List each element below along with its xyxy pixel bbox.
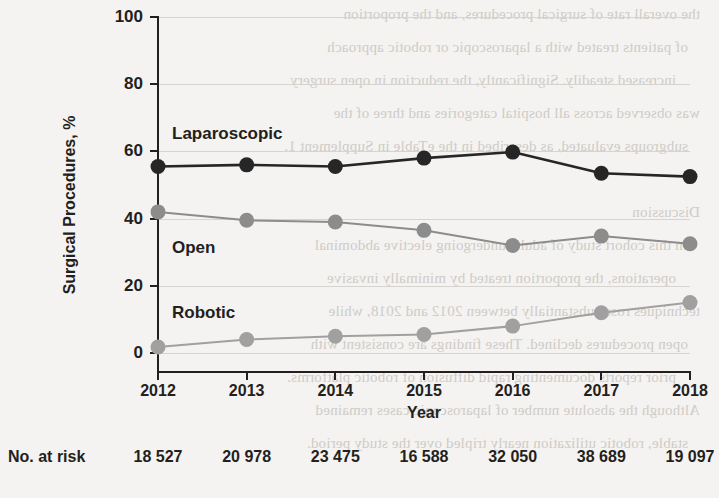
at-risk-value: 18 527 (134, 448, 183, 466)
x-tick-label-2012: 2012 (140, 382, 176, 400)
x-tick-label-2015: 2015 (406, 382, 442, 400)
data-point (328, 214, 343, 229)
data-point (505, 145, 520, 160)
x-tick-2018 (689, 371, 691, 380)
data-point (683, 295, 698, 310)
at-risk-value: 23 475 (311, 448, 360, 466)
data-point (239, 332, 254, 347)
at-risk-value: 38 689 (577, 448, 626, 466)
at-risk-value: 16 588 (400, 448, 449, 466)
data-point (239, 157, 254, 172)
data-point (417, 327, 432, 342)
data-point (151, 159, 166, 174)
x-tick-label-2014: 2014 (318, 382, 354, 400)
data-point (594, 166, 609, 181)
data-point (328, 159, 343, 174)
data-point (505, 319, 520, 334)
data-point (328, 329, 343, 344)
data-point (239, 213, 254, 228)
at-risk-value: 32 050 (488, 448, 537, 466)
series-open (151, 204, 698, 253)
data-point (594, 229, 609, 244)
at-risk-value: 20 978 (222, 448, 271, 466)
series-laparoscopic (151, 145, 698, 185)
x-tick-label-2018: 2018 (672, 382, 708, 400)
series-label-open: Open (172, 238, 215, 258)
x-tick-2013 (246, 371, 248, 380)
x-tick-2015 (423, 371, 425, 380)
data-point (151, 339, 166, 354)
data-point (417, 151, 432, 166)
data-point (151, 204, 166, 219)
x-tick-2014 (334, 371, 336, 380)
x-tick-label-2013: 2013 (229, 382, 265, 400)
series-label-laparoscopic: Laparoscopic (172, 124, 283, 144)
at-risk-label: No. at risk (8, 448, 85, 466)
x-axis-title: Year (158, 404, 690, 422)
data-point (683, 169, 698, 184)
x-tick-2012 (157, 371, 159, 380)
data-point (417, 223, 432, 238)
series-plot (0, 0, 719, 498)
data-point (594, 305, 609, 320)
x-tick-2017 (600, 371, 602, 380)
data-point (683, 236, 698, 251)
x-tick-label-2016: 2016 (495, 382, 531, 400)
x-tick-2016 (512, 371, 514, 380)
data-point (505, 238, 520, 253)
x-tick-label-2017: 2017 (584, 382, 620, 400)
at-risk-value: 19 097 (666, 448, 715, 466)
figure-panel: 100 80 60 40 20 0 Surgical Procedures, %… (0, 0, 719, 498)
series-label-robotic: Robotic (172, 303, 235, 323)
